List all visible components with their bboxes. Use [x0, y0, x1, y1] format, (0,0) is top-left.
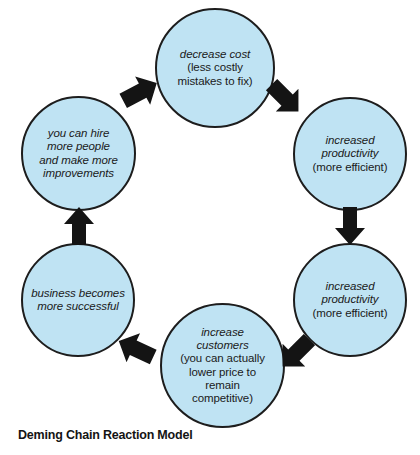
node-increased-productivity-1-lead-1: increased — [313, 134, 388, 147]
node-hire-more-people-text: you can hire more people and make more i… — [33, 127, 124, 180]
node-business-successful-text: business becomes more successful — [25, 287, 131, 314]
arrow-to-increased-productivity-1-icon — [262, 76, 308, 120]
node-hire-more-people-lead-3: and make more — [39, 154, 118, 167]
node-increase-customers-lead-1: increase — [180, 326, 265, 339]
node-increased-productivity-2-lead-2: productivity — [313, 293, 388, 306]
node-decrease-cost-sub-2: mistakes to fix) — [177, 75, 252, 88]
arrow-to-decrease-cost-icon — [117, 70, 163, 114]
node-hire-more-people-lead-1: you can hire — [39, 127, 118, 140]
diagram-caption: Deming Chain Reaction Model — [18, 428, 192, 442]
node-business-successful-lead-2: more successful — [31, 300, 125, 313]
node-business-successful-lead-1: business becomes — [31, 287, 125, 300]
node-decrease-cost-sub-1: (less costly — [177, 61, 252, 74]
node-increase-customers-sub-2: lower price to — [180, 366, 265, 379]
node-increased-productivity-2-text: increased productivity (more efficient) — [307, 280, 394, 320]
node-increased-productivity-1-lead-2: productivity — [313, 147, 388, 160]
node-increased-productivity-1-sub-1: (more efficient) — [313, 161, 388, 174]
node-hire-more-people-lead-4: improvements — [39, 167, 118, 180]
node-increase-customers: increase customers (you can actually low… — [160, 303, 285, 428]
node-increased-productivity-2-lead-1: increased — [313, 280, 388, 293]
arrow-to-increase-customers-icon — [273, 331, 319, 375]
node-decrease-cost: decrease cost (less costly mistakes to f… — [155, 8, 275, 128]
node-increase-customers-sub-3: remain — [180, 379, 265, 392]
arrow-to-increased-productivity-2-icon — [328, 206, 372, 246]
node-increased-productivity-2-sub-1: (more efficient) — [313, 307, 388, 320]
node-decrease-cost-lead: decrease cost — [177, 48, 252, 61]
arrow-to-business-successful-icon — [113, 327, 159, 371]
deming-chain-reaction-diagram: decrease cost (less costly mistakes to f… — [0, 0, 420, 455]
node-increase-customers-sub-1: (you can actually — [180, 352, 265, 365]
node-increased-productivity-1: increased productivity (more efficient) — [293, 97, 407, 211]
arrow-to-hire-more-people-icon — [57, 206, 101, 246]
node-increase-customers-sub-4: competitive) — [180, 392, 265, 405]
node-hire-more-people-lead-2: more people — [39, 140, 118, 153]
node-decrease-cost-text: decrease cost (less costly mistakes to f… — [171, 48, 258, 88]
node-increase-customers-text: increase customers (you can actually low… — [174, 326, 271, 406]
node-increase-customers-lead-2: customers — [180, 339, 265, 352]
node-increased-productivity-1-text: increased productivity (more efficient) — [307, 134, 394, 174]
